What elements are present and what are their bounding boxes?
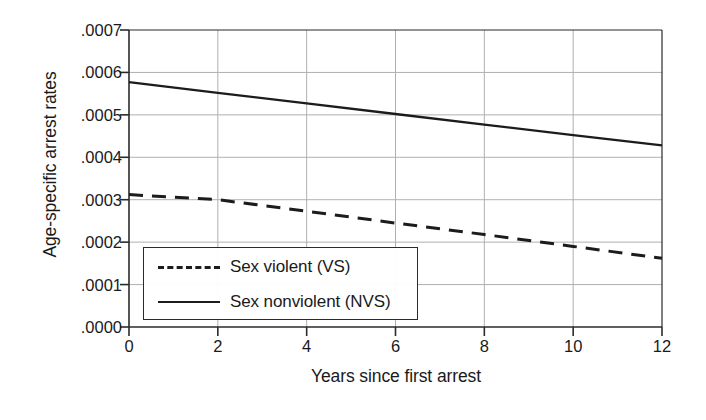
legend-solid-line-icon xyxy=(158,295,220,309)
legend-entry-sex-violent: Sex violent (VS) xyxy=(144,249,417,285)
x-tick-label: 0 xyxy=(99,337,159,356)
legend-entry-sex-nonviolent: Sex nonviolent (NVS) xyxy=(144,284,417,320)
legend-label: Sex violent (VS) xyxy=(230,257,350,277)
legend-dashed-line-icon xyxy=(158,260,220,274)
chart-legend: Sex violent (VS) Sex nonviolent (NVS) xyxy=(143,247,418,320)
chart-figure: .0007 .0006 .0005 .0004 .0003 .0002 .000… xyxy=(0,0,706,420)
x-axis-tick-labels: 0 2 4 6 8 10 12 xyxy=(0,0,706,420)
x-tick-label: 6 xyxy=(366,337,426,356)
x-axis-title: Years since first arrest xyxy=(129,366,663,387)
x-tick-label: 2 xyxy=(188,337,248,356)
legend-label: Sex nonviolent (NVS) xyxy=(230,292,391,312)
x-tick-label: 4 xyxy=(277,337,337,356)
x-tick-label: 8 xyxy=(454,337,514,356)
x-tick-label: 12 xyxy=(632,337,692,356)
x-tick-label: 10 xyxy=(543,337,603,356)
